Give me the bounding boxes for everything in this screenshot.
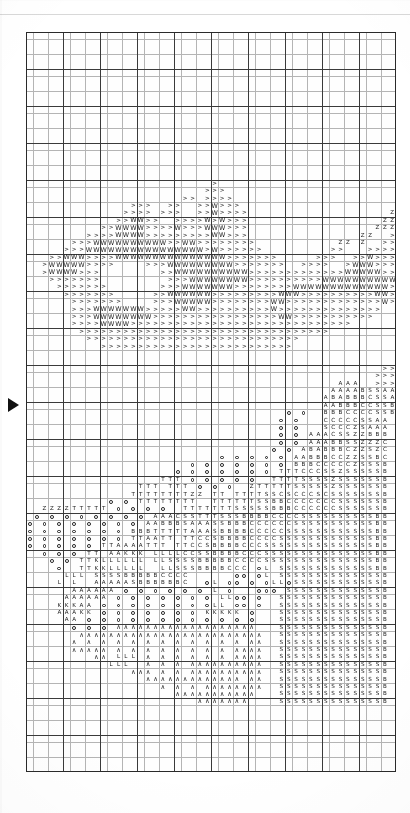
stitch-letter-z: Z xyxy=(359,239,366,246)
stitch-letter-z: Z xyxy=(41,506,48,513)
stitch-greater-than: > xyxy=(100,328,107,335)
stitch-letter-t: T xyxy=(181,491,188,498)
stitch-greater-than: > xyxy=(389,284,396,291)
stitch-greater-than: > xyxy=(337,291,344,298)
stitch-letter-s: S xyxy=(337,624,344,631)
stitch-letter-w: W xyxy=(226,284,233,291)
stitch-letter-s: S xyxy=(374,676,381,683)
stitch-open-circle xyxy=(144,594,151,601)
stitch-letter-t: T xyxy=(233,498,240,505)
stitch-letter-s: S xyxy=(329,594,336,601)
stitch-greater-than: > xyxy=(359,306,366,313)
stitch-letter-s: S xyxy=(366,461,373,468)
stitch-greater-than: > xyxy=(352,298,359,305)
stitch-letter-s: S xyxy=(359,461,366,468)
open-circle-icon xyxy=(117,611,121,615)
stitch-letter-a: A xyxy=(381,424,388,431)
stitch-letter-s: S xyxy=(300,661,307,668)
stitch-letter-s: S xyxy=(278,609,285,616)
stitch-letter-a: A xyxy=(152,535,159,542)
stitch-letter-s: S xyxy=(329,469,336,476)
stitch-letter-c: C xyxy=(315,469,322,476)
stitch-letter-s: S xyxy=(270,557,277,564)
open-circle-icon xyxy=(146,596,150,600)
stitch-letter-s: S xyxy=(255,506,262,513)
open-circle-icon xyxy=(72,552,76,556)
stitch-letter-w: W xyxy=(137,313,144,320)
open-circle-icon xyxy=(257,589,261,593)
stitch-greater-than: > xyxy=(344,321,351,328)
stitch-letter-l: L xyxy=(174,550,181,557)
stitch-letter-s: S xyxy=(285,617,292,624)
stitch-letter-l: L xyxy=(167,550,174,557)
stitch-greater-than: > xyxy=(137,343,144,350)
stitch-letter-s: S xyxy=(300,683,307,690)
stitch-open-circle xyxy=(248,469,255,476)
stitch-letter-b: B xyxy=(218,528,225,535)
stitch-open-circle xyxy=(130,602,137,609)
stitch-open-circle xyxy=(159,602,166,609)
open-circle-icon xyxy=(228,485,232,489)
stitch-letter-s: S xyxy=(337,639,344,646)
stitch-letter-b: B xyxy=(374,550,381,557)
stitch-letter-t: T xyxy=(167,476,174,483)
stitch-greater-than: > xyxy=(107,343,114,350)
open-circle-icon xyxy=(250,581,254,585)
stitch-letter-b: B xyxy=(204,557,211,564)
stitch-letter-w: W xyxy=(315,284,322,291)
stitch-greater-than: > xyxy=(374,372,381,379)
open-circle-icon xyxy=(161,604,165,608)
stitch-letter-c: C xyxy=(285,498,292,505)
open-circle-icon xyxy=(72,544,76,548)
stitch-letter-s: S xyxy=(359,513,366,520)
stitch-letter-s: S xyxy=(329,543,336,550)
open-circle-icon xyxy=(205,470,209,474)
stitch-letter-b: B xyxy=(144,572,151,579)
stitch-greater-than: > xyxy=(93,284,100,291)
stitch-greater-than: > xyxy=(344,313,351,320)
pattern-chart-page: >>>>>>>>>>>>>>>>>W>>>>>>>>>>>>W>>>>Z>>WW… xyxy=(0,0,410,813)
stitch-letter-s: S xyxy=(307,483,314,490)
stitch-greater-than: > xyxy=(93,269,100,276)
stitch-letter-s: S xyxy=(352,557,359,564)
stitch-open-circle xyxy=(292,439,299,446)
stitch-letter-a: A xyxy=(70,587,77,594)
stitch-letter-b: B xyxy=(218,543,225,550)
stitch-letter-k: K xyxy=(218,609,225,616)
stitch-letter-s: S xyxy=(366,580,373,587)
stitch-greater-than: > xyxy=(100,224,107,231)
stitch-greater-than: > xyxy=(211,187,218,194)
stitch-greater-than: > xyxy=(85,335,92,342)
stitch-letter-l: L xyxy=(167,565,174,572)
stitch-letter-s: S xyxy=(366,587,373,594)
stitch-letter-l: L xyxy=(107,565,114,572)
stitch-letter-k: K xyxy=(85,609,92,616)
stitch-grid[interactable]: >>>>>>>>>>>>>>>>>W>>>>>>>>>>>>W>>>>Z>>WW… xyxy=(26,32,396,772)
stitch-letter-k: K xyxy=(211,609,218,616)
open-circle-icon xyxy=(205,618,209,622)
stitch-letter-s: S xyxy=(285,550,292,557)
stitch-greater-than: > xyxy=(218,195,225,202)
stitch-open-circle xyxy=(233,594,240,601)
stitch-caret: ∧ xyxy=(78,646,85,653)
stitch-letter-s: S xyxy=(344,602,351,609)
stitch-letter-w: W xyxy=(130,313,137,320)
stitch-letter-a: A xyxy=(329,387,336,394)
stitch-letter-b: B xyxy=(278,498,285,505)
stitch-letter-c: C xyxy=(322,461,329,468)
stitch-letter-l: L xyxy=(115,565,122,572)
stitch-letter-b: B xyxy=(322,454,329,461)
stitch-greater-than: > xyxy=(248,247,255,254)
stitch-letter-s: S xyxy=(278,661,285,668)
stitch-letter-t: T xyxy=(248,498,255,505)
stitch-open-circle xyxy=(300,409,307,416)
stitch-letter-s: S xyxy=(292,698,299,705)
stitch-letter-s: S xyxy=(300,624,307,631)
stitch-greater-than: > xyxy=(85,254,92,261)
stitch-open-circle xyxy=(85,535,92,542)
stitch-letter-s: S xyxy=(344,617,351,624)
stitch-letter-s: S xyxy=(130,580,137,587)
open-circle-icon xyxy=(279,426,283,430)
stitch-letter-s: S xyxy=(344,631,351,638)
stitch-greater-than: > xyxy=(218,321,225,328)
